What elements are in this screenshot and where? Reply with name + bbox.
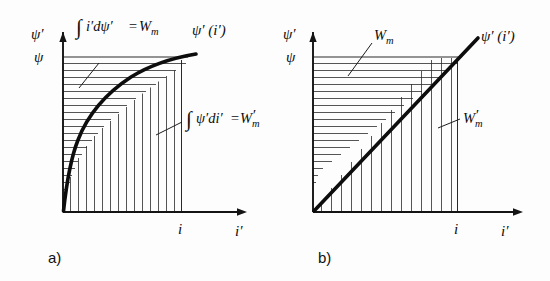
panel-b-curve-label: ψ′ (i′) [481, 28, 515, 45]
panel-b-magnetization-curve [314, 38, 478, 211]
panel-a-upper-equals: = [128, 18, 138, 34]
panel-b-x-axis-label: i′ [501, 223, 509, 239]
panel-a-x-tick-label: i [178, 221, 182, 237]
panel-b-y-axis-label: ψ′ [283, 26, 296, 42]
panel-b-lower-formula: W ′ m [463, 107, 483, 129]
panel-b-caption: b) [318, 249, 331, 266]
panel-a: ψ′ ψ i i′ ψ′ (i′) ∫ i′dψ′ = W m ∫ ψ′di′ … [31, 15, 260, 266]
panel-b-y-tick-label: ψ [286, 49, 296, 65]
panel-a-lower-leader-line [156, 122, 182, 135]
panel-a-upper-formula: ∫ i′dψ′ = W m [74, 15, 159, 40]
panel-a-lower-formula: ∫ ψ′di′ = W ′ m [184, 107, 260, 132]
panel-b: ψ′ ψ i i′ ψ′ (i′) W m W ′ m b) [283, 26, 523, 266]
panel-a-x-axis-arrow [237, 208, 247, 215]
energy-coenergy-figure: ψ′ ψ i i′ ψ′ (i′) ∫ i′dψ′ = W m ∫ ψ′di′ … [0, 0, 550, 281]
figure-canvas: ψ′ ψ i i′ ψ′ (i′) ∫ i′dψ′ = W m ∫ ψ′di′ … [0, 0, 550, 281]
panel-a-curve-label: ψ′ (i′) [192, 22, 226, 39]
panel-a-x-axis-label: i′ [235, 223, 243, 239]
panel-a-lower-equals: = [230, 110, 240, 126]
panel-a-upper-result-subscript: m [151, 26, 159, 37]
panel-b-x-tick-label: i [454, 221, 458, 237]
panel-b-upper-formula: W m [374, 27, 394, 46]
panel-b-y-axis-arrow [309, 32, 316, 42]
panel-b-upper-result-subscript: m [386, 35, 394, 46]
panel-a-upper-integral-sign: ∫ [74, 15, 83, 40]
panel-a-y-axis-label: ψ′ [31, 26, 44, 42]
panel-b-x-axis-arrow [513, 208, 523, 215]
panel-a-lower-integral-sign: ∫ [184, 107, 193, 132]
panel-a-upper-integrand: i′dψ′ [86, 18, 113, 34]
panel-a-caption: a) [48, 249, 61, 266]
panel-a-y-axis-arrow [59, 32, 66, 42]
panel-a-y-tick-label: ψ [34, 49, 44, 65]
panel-b-lower-result-subscript: m [475, 118, 483, 129]
panel-b-upper-leader-line [348, 43, 372, 76]
panel-a-lower-result-subscript: m [252, 118, 260, 129]
panel-a-lower-integrand: ψ′di′ [196, 110, 223, 126]
